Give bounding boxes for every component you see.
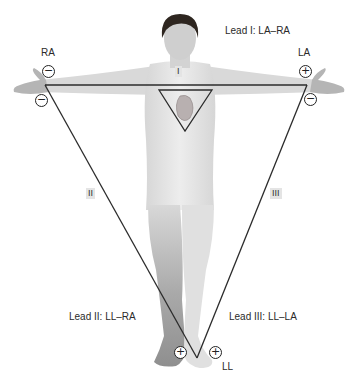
right-leg [148,205,186,367]
lead-i-caption: Lead I: LA–RA [225,26,290,36]
ll-positive-right-icon: + [209,346,222,359]
lead-ii-caption: Lead II: LL–RA [69,312,136,322]
left-leg [182,205,214,368]
torso [145,61,216,210]
ll-label: LL [222,362,233,372]
heart [176,95,193,120]
la-negative-bottom-icon: − [304,93,317,106]
lead-iii-caption: Lead III: LL–LA [229,312,297,322]
ra-label: RA [41,48,55,58]
ra-negative-top-icon: − [42,65,55,78]
la-positive-top-icon: + [299,65,312,78]
ll-positive-left-icon: + [174,346,187,359]
lead-iii-marker: III [270,188,282,199]
ra-negative-bottom-icon: − [35,94,48,107]
einthoven-triangle-diagram: RA LA LL − − + − + + I II III Lead I: LA… [0,0,358,384]
lead-ii-marker: II [86,188,95,199]
la-label: LA [298,48,310,58]
lead-i-marker: I [175,66,182,77]
